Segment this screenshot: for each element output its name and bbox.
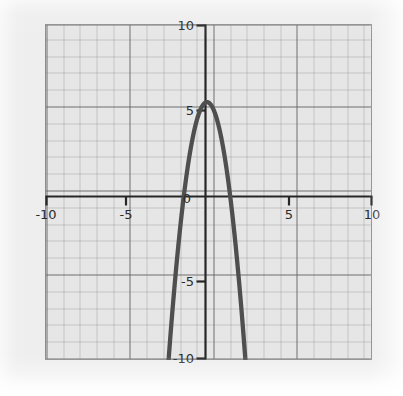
plot-area [45,24,372,360]
y-tick-label-10: 10 [152,19,194,32]
y-tick-label-neg5: -5 [152,275,194,288]
x-tick-label-neg5: -5 [106,208,146,221]
major-gridlines [46,25,371,359]
x-tick-label-5: 5 [269,208,309,221]
y-tick-label-5: 5 [152,104,194,117]
graph-canvas: -10 -5 0 5 10 10 5 -5 -10 [0,0,403,396]
x-tick-label-10: 10 [352,208,392,221]
x-tick-label-neg10: -10 [26,208,66,221]
x-tick-label-zero: 0 [176,192,198,205]
y-tick-label-neg10: -10 [152,352,194,365]
